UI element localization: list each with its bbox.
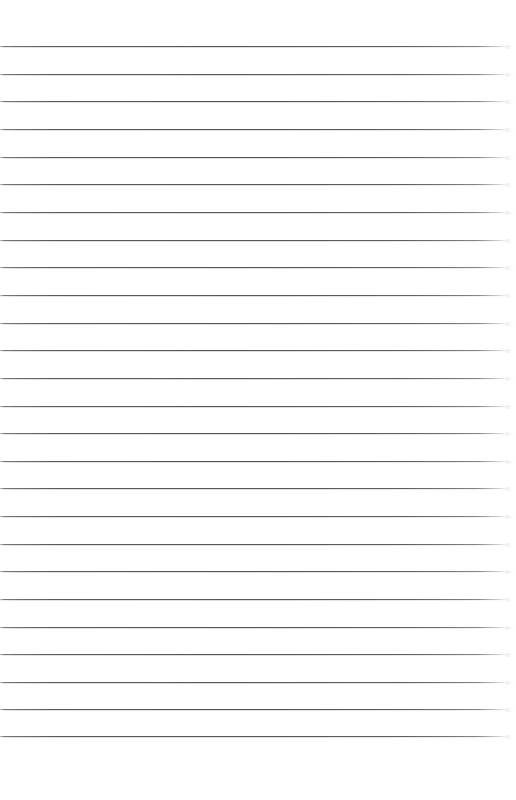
rule-line-taper [506, 294, 516, 298]
rule-line-halo [0, 268, 508, 269]
rule-line-stroke [0, 350, 508, 351]
rule-line-taper [506, 211, 516, 215]
rule-line-halo [0, 158, 508, 159]
rule-line-stroke [0, 709, 508, 710]
scanned-page [0, 0, 516, 800]
rule-line-taper [506, 460, 516, 464]
rule-line [0, 378, 508, 380]
rule-line-stroke [0, 74, 508, 75]
rule-line [0, 599, 508, 601]
rule-line-stroke [0, 433, 508, 434]
rule-line-stroke [0, 184, 508, 185]
rule-line [0, 516, 508, 518]
rule-line-taper [506, 100, 516, 104]
rule-line-taper [506, 653, 516, 657]
rule-line-stroke [0, 544, 508, 545]
rule-line-halo [0, 462, 508, 463]
rule-line [0, 74, 508, 76]
rule-line [0, 544, 508, 546]
rule-line-stroke [0, 654, 508, 655]
rule-line-taper [506, 183, 516, 187]
rule-line-stroke [0, 129, 508, 130]
rule-line-halo [0, 434, 508, 435]
rule-line-stroke [0, 378, 508, 379]
rule-line-halo [0, 545, 508, 546]
rule-line-stroke [0, 295, 508, 296]
rule-line-halo [0, 489, 508, 490]
rule-line-taper [506, 405, 516, 409]
rule-line-halo [0, 517, 508, 518]
rule-line [0, 433, 508, 435]
rule-line [0, 212, 508, 214]
rule-line-taper [506, 570, 516, 574]
rule-line-halo [0, 628, 508, 629]
rule-line-taper [506, 128, 516, 132]
rule-line [0, 709, 508, 711]
rule-line [0, 406, 508, 408]
rule-line-halo [0, 379, 508, 380]
rule-line-halo [0, 185, 508, 186]
rule-line-stroke [0, 157, 508, 158]
rule-line [0, 184, 508, 186]
rule-line [0, 682, 508, 684]
rule-line-halo [0, 102, 508, 103]
rule-line [0, 627, 508, 629]
rule-line-taper [506, 598, 516, 602]
ruled-lines-group [0, 0, 516, 800]
rule-line-taper [506, 487, 516, 491]
rule-line-halo [0, 296, 508, 297]
rule-line [0, 736, 508, 738]
rule-line [0, 129, 508, 131]
rule-line-halo [0, 572, 508, 573]
rule-line-taper [506, 73, 516, 77]
rule-line-halo [0, 737, 508, 738]
rule-line [0, 654, 508, 656]
rule-line-stroke [0, 406, 508, 407]
rule-line-stroke [0, 240, 508, 241]
rule-line-halo [0, 130, 508, 131]
rule-line-halo [0, 241, 508, 242]
rule-line-taper [506, 626, 516, 630]
rule-line [0, 240, 508, 242]
rule-line [0, 46, 508, 48]
rule-line-stroke [0, 488, 508, 489]
rule-line [0, 295, 508, 297]
rule-line-taper [506, 349, 516, 353]
rule-line-taper [506, 45, 516, 49]
rule-line-taper [506, 377, 516, 381]
rule-line-stroke [0, 461, 508, 462]
rule-line-taper [506, 708, 516, 712]
rule-line-halo [0, 655, 508, 656]
rule-line-stroke [0, 682, 508, 683]
rule-line-taper [506, 681, 516, 685]
rule-line-stroke [0, 736, 508, 737]
rule-line-stroke [0, 46, 508, 47]
rule-line-taper [506, 156, 516, 160]
rule-line [0, 488, 508, 490]
rule-line-stroke [0, 267, 508, 268]
rule-line-halo [0, 75, 508, 76]
rule-line [0, 323, 508, 325]
rule-line-halo [0, 683, 508, 684]
rule-line-stroke [0, 599, 508, 600]
rule-line [0, 461, 508, 463]
rule-line [0, 350, 508, 352]
rule-line-stroke [0, 571, 508, 572]
rule-line-halo [0, 600, 508, 601]
rule-line-taper [506, 239, 516, 243]
rule-line-halo [0, 710, 508, 711]
rule-line [0, 571, 508, 573]
rule-line-halo [0, 213, 508, 214]
rule-line [0, 157, 508, 159]
rule-line-stroke [0, 101, 508, 102]
rule-line-taper [506, 735, 516, 739]
rule-line-stroke [0, 516, 508, 517]
rule-line-taper [506, 266, 516, 270]
rule-line-stroke [0, 323, 508, 324]
rule-line-taper [506, 322, 516, 326]
rule-line-halo [0, 324, 508, 325]
rule-line-halo [0, 351, 508, 352]
rule-line-stroke [0, 627, 508, 628]
rule-line-taper [506, 543, 516, 547]
rule-line-taper [506, 432, 516, 436]
